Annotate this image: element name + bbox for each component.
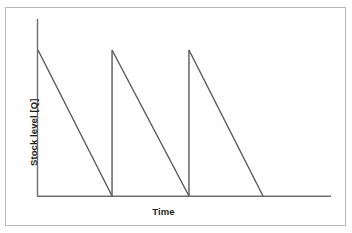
x-axis-title: Time xyxy=(0,206,334,217)
figure-frame: Stock level [Q] Time xyxy=(5,7,346,226)
depletion-segment-3 xyxy=(189,50,263,196)
inventory-sawtooth-chart xyxy=(6,8,347,227)
plot-area: Stock level [Q] Time xyxy=(6,8,347,227)
depletion-segment-1 xyxy=(38,50,112,196)
y-axis-title: Stock level [Q] xyxy=(28,99,39,167)
depletion-segment-2 xyxy=(112,50,189,196)
stock-level-series xyxy=(38,50,263,196)
